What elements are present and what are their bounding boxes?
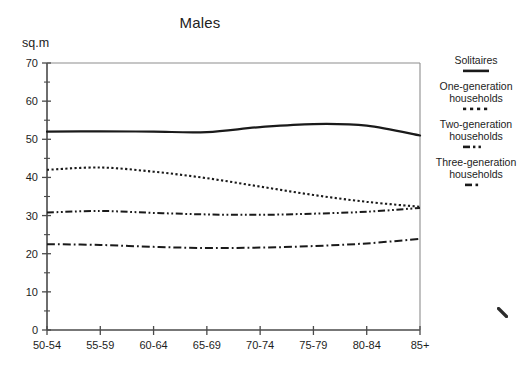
svg-text:85+: 85+ <box>411 339 430 351</box>
legend-label: Solitaires <box>428 54 524 67</box>
svg-text:20: 20 <box>26 248 38 260</box>
legend-sample-dotted <box>459 106 493 115</box>
series-line-0 <box>47 124 420 136</box>
legend-entry-one-generation: One-generation households <box>428 80 524 115</box>
svg-text:65-69: 65-69 <box>193 339 221 351</box>
svg-text:60: 60 <box>26 95 38 107</box>
legend-sample-dash-dot-dot <box>459 144 493 153</box>
axis-layer <box>42 63 420 335</box>
legend-sample-solid <box>459 68 493 77</box>
legend-label: One-generation households <box>428 80 524 105</box>
svg-text:0: 0 <box>32 324 38 336</box>
chart-legend: Solitaires One-generation households Two… <box>428 54 524 194</box>
legend-entry-three-generation: Three-generation households <box>428 156 524 191</box>
svg-text:30: 30 <box>26 210 38 222</box>
svg-text:10: 10 <box>26 286 38 298</box>
series-line-2 <box>47 208 420 215</box>
legend-entry-solitaires: Solitaires <box>428 54 524 77</box>
svg-text:75-79: 75-79 <box>299 339 327 351</box>
svg-text:60-64: 60-64 <box>140 339 168 351</box>
svg-text:40: 40 <box>26 171 38 183</box>
legend-entry-two-generation: Two-generation households <box>428 118 524 153</box>
series-line-1 <box>47 167 420 206</box>
legend-label: Two-generation households <box>428 118 524 143</box>
legend-label: Three-generation households <box>428 156 524 181</box>
tick-label-layer: 01020304050607050-5455-5960-6465-6970-74… <box>26 57 430 351</box>
legend-sample-dash-dot <box>459 182 493 191</box>
svg-text:80-84: 80-84 <box>353 339 381 351</box>
svg-text:55-59: 55-59 <box>86 339 114 351</box>
chart-container: Males sq.m 01020304050607050-5455-5960-6… <box>0 0 526 379</box>
series-layer <box>47 124 420 248</box>
svg-text:70-74: 70-74 <box>246 339 274 351</box>
scan-artifact-mark <box>497 307 508 318</box>
svg-text:50: 50 <box>26 133 38 145</box>
svg-text:70: 70 <box>26 57 38 69</box>
svg-text:50-54: 50-54 <box>33 339 61 351</box>
series-line-3 <box>47 239 420 248</box>
